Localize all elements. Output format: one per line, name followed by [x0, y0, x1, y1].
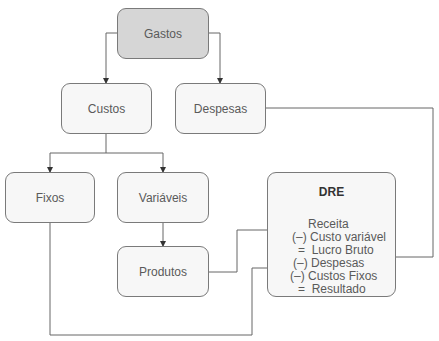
- node-fixos: Fixos: [5, 172, 95, 223]
- node-despesas-label: Despesas: [194, 102, 247, 116]
- node-fixos-label: Fixos: [36, 191, 65, 205]
- node-despesas: Despesas: [175, 83, 266, 134]
- node-variaveis-label: Variáveis: [139, 191, 187, 205]
- dre-line-resultado: = Resultado: [298, 283, 366, 296]
- dre-title: DRE: [268, 185, 395, 199]
- node-gastos: Gastos: [117, 8, 209, 59]
- node-produtos: Produtos: [117, 246, 209, 297]
- node-variaveis: Variáveis: [117, 172, 209, 223]
- node-custos: Custos: [61, 83, 152, 134]
- dre-box: DRE Receita (–) Custo variável = Lucro B…: [267, 172, 396, 297]
- node-gastos-label: Gastos: [144, 27, 182, 41]
- node-custos-label: Custos: [88, 102, 125, 116]
- node-produtos-label: Produtos: [139, 265, 187, 279]
